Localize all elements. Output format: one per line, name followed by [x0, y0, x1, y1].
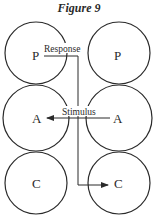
right-child-label: C: [114, 176, 123, 191]
right-parent-label: P: [114, 48, 121, 63]
diagram-canvas: P A C P A C Response Stimulus: [0, 0, 158, 221]
left-child-label: C: [32, 176, 41, 191]
stimulus-arrow: Stimulus: [47, 106, 110, 118]
left-parent-label: P: [32, 48, 39, 63]
stimulus-label: Stimulus: [62, 107, 96, 117]
response-label: Response: [44, 44, 80, 54]
left-adult-label: A: [32, 111, 42, 126]
figure-9-diagram: Figure 9 P A C P A C R: [0, 0, 158, 221]
right-adult-label: A: [113, 111, 123, 126]
